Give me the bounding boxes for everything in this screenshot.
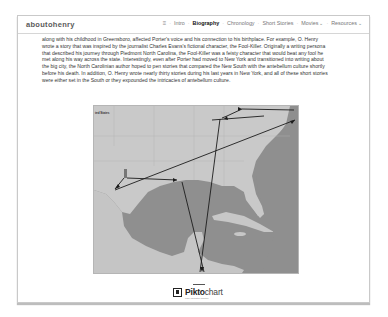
top-navbar: aboutohenry ≡ · Intro · Biography · Chro… bbox=[18, 16, 369, 34]
chevron-down-icon: ⌄ bbox=[358, 21, 362, 26]
nav-menu: ≡ · Intro · Biography · Chronology · Sho… bbox=[162, 20, 363, 26]
map-graphic: ted States bbox=[94, 106, 298, 273]
logo-tagline: make information beautiful bbox=[185, 297, 208, 299]
logo-wordmark-bold: Pikto bbox=[185, 287, 205, 297]
nav-item-chronology[interactable]: Chronology bbox=[226, 20, 256, 26]
svg-text:ted States: ted States bbox=[95, 111, 110, 115]
text-line: wrote a story that was inspired by the j… bbox=[42, 43, 352, 50]
text-line: before his death. In addition, O. Henry … bbox=[42, 70, 352, 77]
piktochart-logo[interactable]: Piktochart make information beautiful bbox=[173, 284, 263, 303]
text-line: the big city, the North Carolinian autho… bbox=[42, 63, 352, 70]
text-line: along with his childhood in Greensboro, … bbox=[42, 36, 352, 43]
site-brand[interactable]: aboutohenry bbox=[26, 20, 75, 29]
nav-item-resources[interactable]: Resources⌄ bbox=[330, 20, 363, 26]
logo-wordmark: Piktochart bbox=[185, 287, 223, 297]
nav-item-biography[interactable]: Biography bbox=[192, 20, 221, 26]
piktochart-logo-icon bbox=[173, 288, 182, 297]
route-map-image: ted States bbox=[93, 105, 299, 274]
nav-item-movies-label: Movies bbox=[301, 20, 318, 26]
text-line: met along his way across the state. Inte… bbox=[42, 56, 352, 63]
logo-decor-bar bbox=[193, 284, 205, 285]
page-frame: aboutohenry ≡ · Intro · Biography · Chro… bbox=[17, 15, 370, 303]
nav-item-movies[interactable]: Movies⌄ bbox=[300, 20, 324, 26]
text-line: were either set in the South or they exp… bbox=[42, 77, 352, 84]
nav-item-intro[interactable]: Intro bbox=[173, 20, 186, 26]
nav-item-short-stories[interactable]: Short Stories bbox=[261, 20, 294, 26]
chevron-down-icon: ⌄ bbox=[319, 21, 323, 26]
article-paragraph: along with his childhood in Greensboro, … bbox=[42, 33, 352, 83]
nav-item-resources-label: Resources bbox=[331, 20, 357, 26]
logo-wordmark-light: chart bbox=[205, 287, 223, 297]
text-line: that described his journey through Piedm… bbox=[42, 50, 352, 57]
